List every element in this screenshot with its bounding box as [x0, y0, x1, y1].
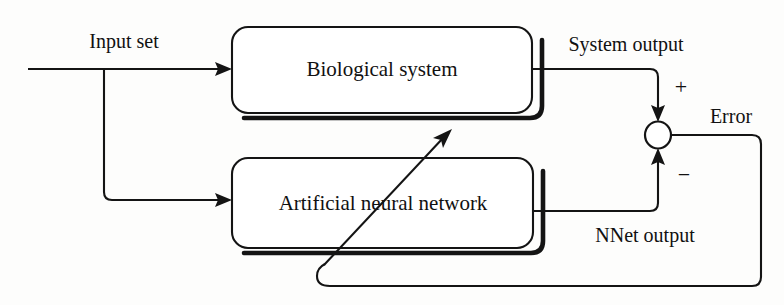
- nnet-output-label: NNet output: [595, 224, 695, 247]
- plus-sign-label: +: [675, 74, 687, 99]
- nnet-output-wire: [533, 158, 658, 211]
- system-output-wire: [532, 69, 658, 112]
- block-artificial-neural-network[interactable]: Artificial neural network: [232, 158, 543, 253]
- nnet-output-wire-group: [533, 148, 665, 211]
- input-set-wire-group: [28, 62, 232, 207]
- summing-junction-circle: [645, 122, 671, 149]
- input-branch-vertical-wire: [104, 69, 222, 200]
- block-diagram-svg: Biological system Artificial neural netw…: [0, 0, 784, 305]
- system-output-wire-group: [532, 69, 665, 122]
- biological-system-label: Biological system: [306, 57, 457, 81]
- block-biological-system[interactable]: Biological system: [232, 27, 542, 118]
- diagram-canvas: Biological system Artificial neural netw…: [0, 0, 784, 305]
- input-set-label: Input set: [89, 30, 159, 53]
- system-output-label: System output: [568, 33, 683, 56]
- error-label: Error: [710, 105, 753, 127]
- summing-junction[interactable]: [645, 122, 671, 149]
- minus-sign-label: −: [678, 162, 690, 187]
